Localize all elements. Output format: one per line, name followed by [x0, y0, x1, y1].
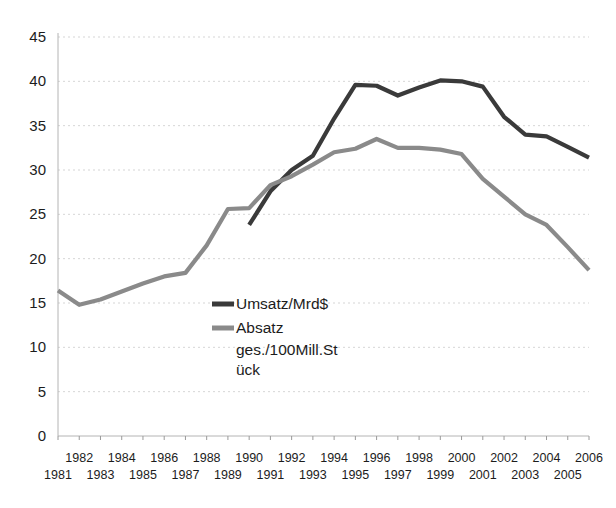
y-tick-label-45: 45 — [29, 28, 46, 45]
y-tick-label-5: 5 — [38, 383, 46, 400]
chart-canvas: 051015202530354045 198219841986198819901… — [0, 0, 616, 508]
x-tick-label-1991: 1991 — [256, 468, 284, 482]
x-tick-label-2000: 2000 — [448, 451, 476, 465]
x-tick-label-2002: 2002 — [490, 451, 518, 465]
x-tick-label-1983: 1983 — [87, 468, 115, 482]
x-tick-label-1982: 1982 — [65, 451, 93, 465]
y-tick-label-30: 30 — [29, 161, 46, 178]
y-tick-label-40: 40 — [29, 72, 46, 89]
x-tick-label-1993: 1993 — [299, 468, 327, 482]
y-tick-label-15: 15 — [29, 294, 46, 311]
x-tick-label-1994: 1994 — [320, 451, 348, 465]
legend-label-1: Absatz — [236, 319, 283, 336]
x-tick-label-1996: 1996 — [363, 451, 391, 465]
x-tick-label-1998: 1998 — [405, 451, 433, 465]
y-tick-label-25: 25 — [29, 205, 46, 222]
x-tick-label-1997: 1997 — [384, 468, 412, 482]
y-tick-label-35: 35 — [29, 117, 46, 134]
x-tick-label-1984: 1984 — [108, 451, 136, 465]
x-tick-label-2004: 2004 — [533, 451, 561, 465]
x-tick-label-1989: 1989 — [214, 468, 242, 482]
y-tick-label-20: 20 — [29, 250, 46, 267]
x-tick-label-1995: 1995 — [341, 468, 369, 482]
y-tick-label-0: 0 — [38, 427, 46, 444]
line-chart: 051015202530354045 198219841986198819901… — [0, 0, 616, 508]
legend-label-0: Umsatz/Mrd$ — [236, 295, 329, 312]
x-tick-label-2005: 2005 — [554, 468, 582, 482]
x-tick-label-2006: 2006 — [575, 451, 603, 465]
x-tick-label-1999: 1999 — [426, 468, 454, 482]
x-tick-label-1986: 1986 — [150, 451, 178, 465]
x-tick-label-1985: 1985 — [129, 468, 157, 482]
x-tick-label-2003: 2003 — [511, 468, 539, 482]
x-tick-label-1988: 1988 — [193, 451, 221, 465]
x-tick-label-1992: 1992 — [278, 451, 306, 465]
legend-label-2: ges./100Mill.St — [236, 341, 338, 358]
x-tick-label-2001: 2001 — [469, 468, 497, 482]
x-tick-label-1990: 1990 — [235, 451, 263, 465]
x-tick-label-1981: 1981 — [44, 468, 72, 482]
y-tick-label-10: 10 — [29, 338, 46, 355]
chart-background — [0, 0, 616, 508]
legend-label-3: ück — [236, 361, 260, 378]
x-tick-label-1987: 1987 — [172, 468, 200, 482]
